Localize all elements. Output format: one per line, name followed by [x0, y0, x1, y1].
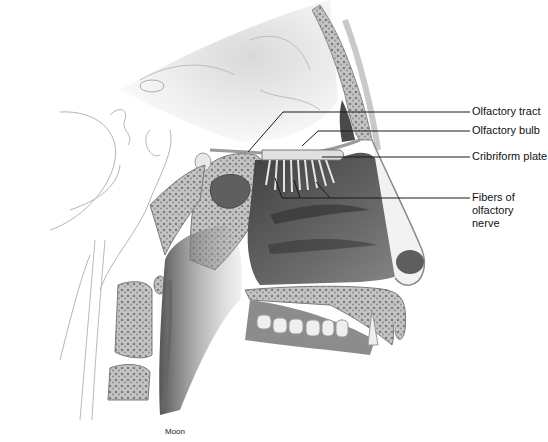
nasal-cavity-illustration [0, 0, 548, 442]
cervical-vertebra-1 [115, 282, 152, 358]
olfactory-bulb-shape [262, 150, 344, 160]
anatomy-figure: Olfactory tract Olfactory bulb Cribrifor… [0, 0, 548, 442]
label-cribriform-plate: Cribriform plate [472, 150, 547, 163]
label-fibers-olfactory-nerve: Fibers of olfactory nerve [472, 191, 515, 230]
illustrator-credit: Moon [165, 427, 185, 436]
label-olfactory-tract: Olfactory tract [472, 105, 540, 118]
cervical-vertebra-2 [108, 365, 150, 400]
leader-olfactory-bulb [302, 131, 470, 146]
brain-region [120, 0, 338, 142]
label-olfactory-bulb: Olfactory bulb [472, 124, 540, 137]
